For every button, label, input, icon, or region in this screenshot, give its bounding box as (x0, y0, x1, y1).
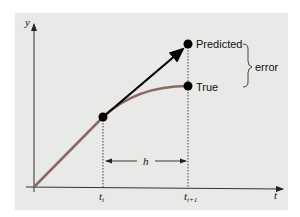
start-point (99, 113, 108, 122)
true-point (184, 82, 193, 91)
step-size-label: h (143, 155, 149, 167)
error-brace (243, 44, 252, 87)
euler-error-diagram: y t Predicted True error h ti ti+1 (0, 0, 300, 217)
true-solution-curve (34, 86, 188, 187)
y-axis-label: y (24, 16, 30, 28)
predicted-label: Predicted (196, 38, 242, 50)
tick-ti1: ti+1 (184, 190, 197, 204)
true-label: True (196, 81, 218, 93)
error-label: error (255, 61, 279, 73)
tick-ti: ti (99, 190, 104, 204)
predicted-slope-line (103, 49, 183, 117)
x-axis-label: t (274, 189, 278, 201)
x-axis (26, 187, 283, 189)
predicted-point (184, 40, 193, 49)
